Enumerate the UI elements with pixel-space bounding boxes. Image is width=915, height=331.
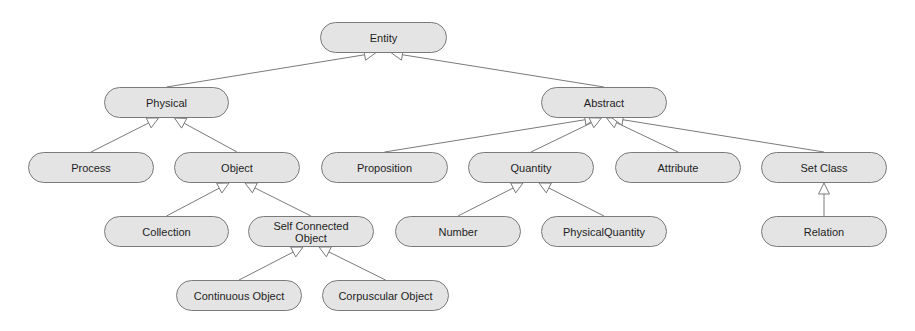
edge-setclass-to-abstract [623,120,824,152]
inheritance-arrow-icon [589,118,601,128]
node-continuous[interactable]: Continuous Object [176,280,302,311]
node-label: Physical [146,97,187,109]
node-collection[interactable]: Collection [104,216,229,247]
edge-object-to-physical [184,123,237,152]
edge-corpuscular-to-selfconnected [329,252,386,280]
node-label: Entity [370,32,398,44]
node-label: Collection [142,226,190,238]
node-number[interactable]: Number [395,216,521,247]
class-hierarchy-diagram: EntityPhysicalAbstractProcessObjectPropo… [0,0,915,331]
node-proposition[interactable]: Proposition [321,152,448,183]
node-label: Relation [804,226,844,238]
node-abstract[interactable]: Abstract [541,87,667,118]
node-label: Process [71,162,111,174]
node-label: Object [221,162,253,174]
node-relation[interactable]: Relation [761,216,887,247]
edge-physical-to-entity [167,55,365,87]
inheritance-arrow-icon [819,183,830,194]
node-label: Attribute [658,162,699,174]
node-label: Proposition [357,162,412,174]
node-physicalquantity[interactable]: PhysicalQuantity [541,216,667,247]
node-label: Abstract [584,97,624,109]
node-label: Quantity [511,162,552,174]
edge-collection-to-object [167,188,220,216]
node-object[interactable]: Object [174,152,300,183]
edge-continuous-to-selfconnected [239,252,293,280]
node-label: Continuous Object [194,290,285,302]
edge-process-to-physical [91,123,149,152]
node-attribute[interactable]: Attribute [615,152,741,183]
edge-physicalquantity-to-quantity [549,188,604,216]
edge-number-to-quantity [458,188,513,216]
node-label: Self Connected Object [271,220,351,244]
edge-selfconnected-to-object [255,188,311,216]
edge-proposition-to-abstract [385,120,586,152]
node-process[interactable]: Process [28,152,154,183]
node-label: PhysicalQuantity [563,226,645,238]
node-corpuscular[interactable]: Corpuscular Object [322,280,449,311]
node-physical[interactable]: Physical [104,87,229,118]
edge-abstract-to-entity [402,55,604,87]
node-selfconnected[interactable]: Self Connected Object [248,216,374,247]
node-entity[interactable]: Entity [320,22,447,53]
inheritance-arrow-icon [175,118,187,128]
node-setclass[interactable]: Set Class [761,152,887,183]
node-label: Number [438,226,477,238]
node-quantity[interactable]: Quantity [468,152,594,183]
node-label: Corpuscular Object [338,290,432,302]
node-label: Set Class [800,162,847,174]
